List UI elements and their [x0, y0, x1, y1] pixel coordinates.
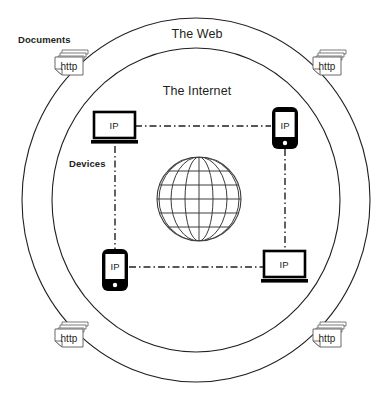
web-ring-label: The Web: [171, 27, 222, 41]
doc-top-left-label: http: [60, 61, 77, 72]
device-phone-bottom-left-label: IP: [110, 261, 119, 272]
device-laptop-top-left-label: IP: [109, 120, 118, 131]
doc-bottom-left-label: http: [60, 333, 77, 344]
devices-label: Devices: [69, 158, 106, 169]
network-layers-diagram: The Web The Internet Documents Devices h…: [0, 0, 390, 397]
internet-ring-label: The Internet: [163, 84, 232, 98]
doc-top-right-label: http: [318, 61, 335, 72]
documents-label: Documents: [18, 34, 71, 45]
device-laptop-bottom-right-label: IP: [279, 259, 288, 270]
globe-icon: [157, 157, 241, 241]
doc-bottom-right-label: http: [318, 333, 335, 344]
device-phone-top-right-label: IP: [280, 120, 289, 131]
